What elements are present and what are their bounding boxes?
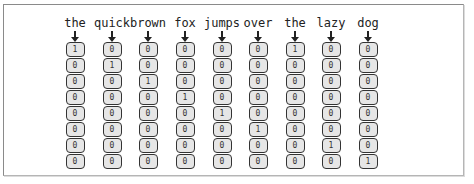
- vector-cell: 0: [249, 106, 268, 121]
- vector-cell: 0: [359, 74, 378, 89]
- vector-cell: 0: [176, 58, 195, 73]
- one-hot-vector: 00000010: [322, 42, 341, 170]
- vector-cell: 0: [213, 74, 232, 89]
- one-hot-vector: 10000000: [66, 42, 85, 170]
- one-hot-vector: 00001000: [213, 42, 232, 170]
- vector-cell: 0: [176, 122, 195, 137]
- token-column: jumps00001000: [204, 5, 240, 170]
- token-label: quick: [94, 15, 130, 31]
- vector-cell: 0: [249, 90, 268, 105]
- token-label: lazy: [317, 15, 346, 31]
- vector-cell: 0: [213, 122, 232, 137]
- vector-cell: 0: [176, 42, 195, 57]
- vector-cell: 0: [359, 138, 378, 153]
- one-hot-vector: 00000001: [359, 42, 378, 170]
- vector-cell: 0: [359, 122, 378, 137]
- vector-cell: 0: [286, 90, 305, 105]
- vector-cell: 1: [286, 42, 305, 57]
- vector-cell: 0: [66, 106, 85, 121]
- vector-cell: 0: [249, 42, 268, 57]
- vector-cell: 1: [103, 58, 122, 73]
- vector-cell: 0: [103, 90, 122, 105]
- vector-cell: 1: [66, 42, 85, 57]
- vector-cell: 0: [249, 154, 268, 169]
- token-label: fox: [174, 15, 196, 31]
- vector-cell: 0: [139, 154, 158, 169]
- vector-cell: 0: [176, 74, 195, 89]
- vector-cell: 0: [139, 138, 158, 153]
- vector-cell: 0: [103, 154, 122, 169]
- token-label: over: [244, 15, 273, 31]
- vector-cell: 0: [176, 154, 195, 169]
- token-column: lazy00000010: [313, 5, 349, 170]
- vector-cell: 1: [359, 154, 378, 169]
- token-column: the10000000: [277, 5, 313, 170]
- vector-cell: 0: [213, 138, 232, 153]
- vector-cell: 0: [66, 90, 85, 105]
- diagram-frame: the10000000quick01000000brown00100000fox…: [3, 4, 464, 176]
- vector-cell: 0: [286, 74, 305, 89]
- down-arrow-icon: [326, 31, 336, 42]
- vector-cell: 0: [359, 90, 378, 105]
- vector-cell: 0: [103, 106, 122, 121]
- vector-cell: 0: [322, 74, 341, 89]
- vector-cell: 0: [66, 154, 85, 169]
- vector-cell: 0: [322, 42, 341, 57]
- token-label: brown: [130, 15, 166, 31]
- down-arrow-icon: [290, 31, 300, 42]
- vector-cell: 0: [213, 42, 232, 57]
- vector-cell: 0: [213, 58, 232, 73]
- vector-cell: 0: [286, 58, 305, 73]
- one-hot-vector: 10000000: [286, 42, 305, 170]
- vector-cell: 0: [286, 122, 305, 137]
- vector-cell: 0: [249, 58, 268, 73]
- token-label: dog: [357, 15, 379, 31]
- vector-cell: 0: [322, 122, 341, 137]
- vector-cell: 0: [66, 122, 85, 137]
- vector-cell: 0: [286, 106, 305, 121]
- token-column: dog00000001: [350, 5, 386, 170]
- vector-cell: 0: [249, 74, 268, 89]
- one-hot-vector: 01000000: [103, 42, 122, 170]
- token-label: the: [284, 15, 306, 31]
- vector-cell: 0: [176, 138, 195, 153]
- token-column: fox00010000: [167, 5, 203, 170]
- vector-cell: 0: [286, 138, 305, 153]
- vector-cell: 0: [322, 106, 341, 121]
- vector-cell: 0: [322, 58, 341, 73]
- vector-cell: 0: [103, 74, 122, 89]
- vector-cell: 0: [322, 154, 341, 169]
- token-label: the: [64, 15, 86, 31]
- token-column: quick01000000: [94, 5, 130, 170]
- vector-cell: 0: [322, 90, 341, 105]
- vector-cell: 1: [139, 74, 158, 89]
- down-arrow-icon: [143, 31, 153, 42]
- vector-cell: 1: [322, 138, 341, 153]
- token-label: jumps: [204, 15, 240, 31]
- vector-cell: 0: [249, 138, 268, 153]
- token-column: brown00100000: [130, 5, 166, 170]
- vector-cell: 0: [66, 74, 85, 89]
- vector-cell: 0: [66, 138, 85, 153]
- vector-cell: 0: [66, 58, 85, 73]
- vector-cell: 0: [359, 58, 378, 73]
- vector-cell: 0: [286, 154, 305, 169]
- vector-cell: 0: [139, 58, 158, 73]
- down-arrow-icon: [180, 31, 190, 42]
- vector-cell: 0: [103, 138, 122, 153]
- down-arrow-icon: [363, 31, 373, 42]
- down-arrow-icon: [253, 31, 263, 42]
- vector-cell: 0: [139, 90, 158, 105]
- vector-cell: 0: [103, 42, 122, 57]
- one-hot-vector: 00010000: [176, 42, 195, 170]
- down-arrow-icon: [107, 31, 117, 42]
- vector-cell: 0: [213, 90, 232, 105]
- vector-cell: 0: [139, 122, 158, 137]
- token-column: over00000100: [240, 5, 276, 170]
- vector-cell: 0: [103, 122, 122, 137]
- vector-cell: 1: [176, 90, 195, 105]
- vector-cell: 0: [176, 106, 195, 121]
- one-hot-vector: 00000100: [249, 42, 268, 170]
- vector-cell: 0: [359, 42, 378, 57]
- vector-cell: 0: [139, 42, 158, 57]
